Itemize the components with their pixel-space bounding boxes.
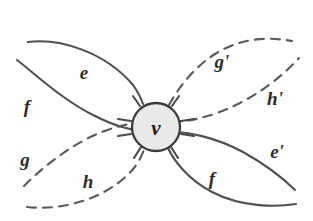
stub-upper-left — [133, 96, 140, 106]
label-e: e — [80, 62, 89, 83]
upper-right-lobe — [169, 39, 299, 122]
label-f: f — [24, 96, 32, 117]
lower-left-lobe — [24, 123, 145, 208]
stub-lower-left — [134, 147, 141, 158]
label-f-prime: f — [209, 168, 217, 189]
label-g-prime: g' — [214, 51, 230, 72]
label-e-prime: e' — [270, 141, 284, 162]
label-g: g — [19, 149, 30, 170]
stub-left — [118, 119, 131, 121]
diagram-canvas: ν e f g h g' h' e' f — [0, 0, 313, 221]
vertex-label: ν — [151, 116, 161, 140]
upper-left-lobe — [17, 41, 143, 130]
label-h: h — [83, 171, 94, 192]
vertex-node: ν — [132, 103, 180, 151]
stub-left-lower — [118, 134, 131, 136]
label-h-prime: h' — [267, 88, 283, 109]
diagram-figure: ν e f g h g' h' e' f — [0, 0, 313, 221]
